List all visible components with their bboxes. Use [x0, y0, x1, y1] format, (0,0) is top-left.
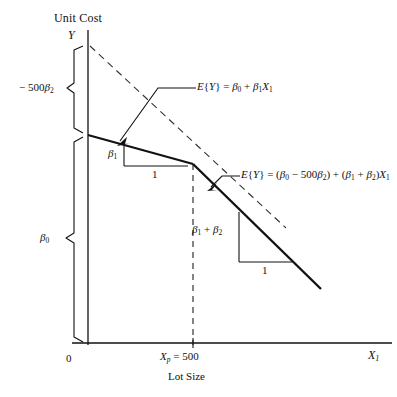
equation-2-label: E{Y} = (β0 − 500β2) + (β1 + β2)X1: [241, 169, 390, 180]
x-axis-symbol: X1: [368, 349, 379, 361]
slope-label-beta1: β1: [108, 148, 117, 159]
run-label-1: 1: [152, 169, 158, 180]
y-axis-symbol: Y: [68, 29, 75, 41]
origin-label: 0: [66, 353, 72, 364]
brace-lower: [66, 137, 83, 342]
run-label-2: 1: [262, 265, 268, 276]
brace-lower-label: β0: [40, 232, 49, 243]
breakpoint-label: Xp = 500: [160, 351, 199, 362]
plot-canvas: [0, 0, 397, 397]
equation-1-label: E{Y} = β0 + β1X1: [197, 81, 273, 92]
slope-label-beta1-plus-beta2: β1 + β2: [192, 224, 222, 235]
brace-upper-label: − 500β2: [19, 82, 54, 93]
x-axis-caption: Lot Size: [168, 371, 205, 382]
response-segment-1: [88, 135, 193, 164]
chart-title: Unit Cost: [54, 12, 102, 24]
brace-upper: [67, 46, 83, 133]
unit-cost-piecewise-regression-figure: Unit Cost Y X1 0 Xp = 500 Lot Size − 500…: [0, 0, 397, 397]
extended-first-segment-dashed-line: [90, 46, 286, 228]
equation-1-leader-line: [120, 88, 196, 141]
